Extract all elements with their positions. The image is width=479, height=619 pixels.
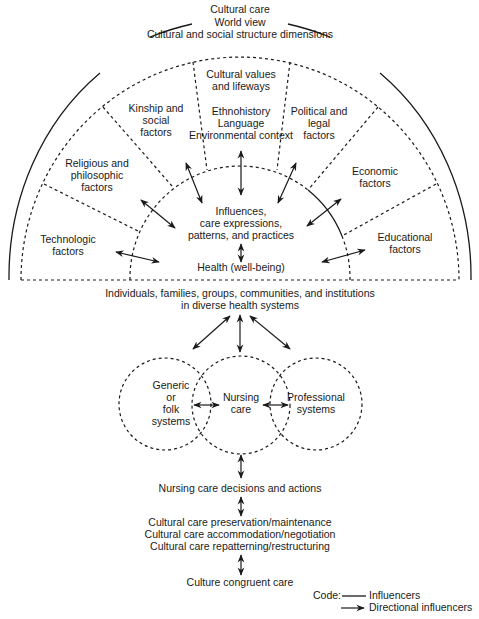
legend: Code: Influencers Directional influencer… <box>313 589 472 613</box>
label-kinship: social <box>143 114 170 126</box>
label-generic: systems <box>152 415 191 427</box>
label-kinship: factors <box>140 126 172 138</box>
directional-arrows-systems <box>194 405 288 478</box>
legend-influencers: Influencers <box>369 589 420 601</box>
directional-arrows-populations <box>193 315 290 352</box>
label-mode-preservation: Cultural care preservation/maintenance <box>148 516 331 528</box>
label-religious: factors <box>81 181 113 193</box>
label-economic: factors <box>359 177 391 189</box>
label-nursing-care: Nursing <box>223 391 259 403</box>
legend-code-label: Code: <box>313 589 341 601</box>
label-outcome: Culture congruent care <box>187 576 294 588</box>
label-cultural-values: Cultural values <box>206 68 275 80</box>
label-populations: in diverse health systems <box>181 299 299 311</box>
label-mode-accommodation: Cultural care accommodation/negotiation <box>145 528 336 540</box>
label-nursing-care: care <box>231 403 252 415</box>
label-religious: Religious and <box>65 157 129 169</box>
label-generic: or <box>166 391 176 403</box>
label-educational: Educational <box>378 231 433 243</box>
label-care-expressions: care expressions, <box>200 217 282 229</box>
label-professional: systems <box>297 403 336 415</box>
title-structure-dimensions: Cultural and social structure dimensions <box>147 28 333 40</box>
label-kinship: Kinship and <box>129 102 184 114</box>
label-ethnohistory: Ethnohistory <box>212 105 271 117</box>
label-generic: folk <box>163 403 180 415</box>
label-language: Language <box>218 117 265 129</box>
label-cultural-values: and lifeways <box>212 80 270 92</box>
label-religious: philosophic <box>71 169 124 181</box>
label-patterns-practices: patterns, and practices <box>188 229 294 241</box>
label-economic: Economic <box>352 165 398 177</box>
label-populations: Individuals, families, groups, communiti… <box>105 287 375 299</box>
label-generic: Generic <box>153 379 190 391</box>
label-professional: Professional <box>287 391 345 403</box>
legend-directional: Directional influencers <box>369 601 472 613</box>
inner-solid-arc-segment <box>308 190 342 236</box>
label-influences: Influences, <box>216 205 267 217</box>
title-cultural-care: Cultural care <box>210 3 270 15</box>
label-mode-repatterning: Cultural care repatterning/restructuring <box>150 540 330 552</box>
label-health: Health (well-being) <box>197 261 285 273</box>
label-environmental-context: Environmental context <box>189 129 293 141</box>
label-decisions: Nursing care decisions and actions <box>159 482 322 494</box>
label-political: legal <box>308 117 330 129</box>
label-educational: factors <box>389 243 421 255</box>
label-technologic: Technologic <box>40 233 95 245</box>
label-technologic: factors <box>52 245 84 257</box>
title-world-view: World view <box>214 16 266 28</box>
sunrise-model-diagram: Cultural care World view Cultural and so… <box>0 0 479 619</box>
label-political: Political and <box>291 105 348 117</box>
inner-dashed-arc-end <box>342 236 350 280</box>
label-political: factors <box>303 129 335 141</box>
